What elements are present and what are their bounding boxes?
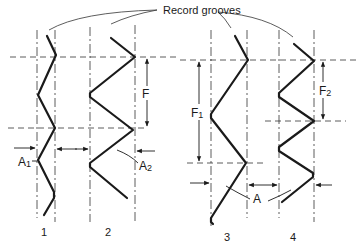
groove-1-label: 1 (41, 226, 47, 238)
record-grooves-label: Record grooves (163, 4, 241, 16)
groove-4-waveform (279, 44, 314, 202)
frequency-label: F (142, 87, 149, 101)
groove-waveforms (38, 36, 314, 224)
groove-2-waveform (90, 38, 135, 198)
groove-2-label: 2 (105, 226, 111, 238)
groove-3-waveform (211, 36, 248, 224)
groove-4-label: 4 (290, 231, 296, 243)
amplitude-label: A (253, 192, 261, 206)
record-groove-diagram: Record grooves F F1 F2 A1 A2 A 1 2 (0, 0, 359, 246)
groove-3-label: 3 (224, 231, 230, 243)
amplitude-1-label: A1 (18, 155, 31, 169)
horizontal-guides (8, 57, 356, 163)
vertical-guides (37, 25, 314, 228)
amplitude-2-label: A2 (139, 159, 152, 173)
groove-1-waveform (38, 36, 56, 215)
